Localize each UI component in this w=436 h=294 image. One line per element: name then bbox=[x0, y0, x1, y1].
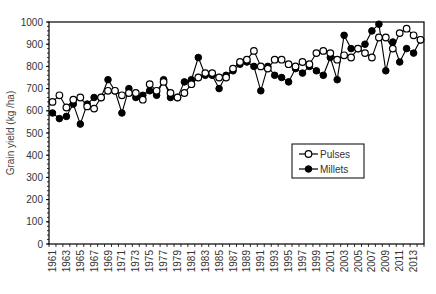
data-point bbox=[237, 59, 244, 66]
data-point bbox=[258, 88, 265, 95]
data-point bbox=[49, 99, 56, 106]
data-point bbox=[146, 81, 153, 88]
y-tick-label: 300 bbox=[26, 172, 43, 183]
x-tick-label: 1961 bbox=[47, 250, 58, 273]
data-point bbox=[376, 21, 383, 28]
y-tick-label: 100 bbox=[26, 216, 43, 227]
data-point bbox=[299, 59, 306, 66]
data-point bbox=[91, 94, 98, 101]
y-tick-label: 0 bbox=[37, 239, 43, 250]
data-point bbox=[160, 79, 167, 86]
data-point bbox=[278, 74, 285, 81]
data-point bbox=[348, 54, 355, 61]
data-point bbox=[265, 65, 272, 72]
data-point bbox=[410, 32, 417, 39]
data-point bbox=[216, 74, 223, 81]
x-tick-label: 1999 bbox=[311, 250, 322, 273]
data-point bbox=[292, 63, 299, 70]
data-point bbox=[105, 88, 112, 95]
y-tick-label: 500 bbox=[26, 128, 43, 139]
data-point bbox=[348, 45, 355, 52]
data-point bbox=[334, 76, 341, 83]
data-point bbox=[390, 45, 397, 52]
data-point bbox=[56, 115, 63, 122]
x-tick-label: 1997 bbox=[297, 250, 308, 273]
legend-label-millets: Millets bbox=[320, 164, 348, 175]
data-point bbox=[56, 92, 63, 99]
data-point bbox=[251, 63, 258, 70]
data-point bbox=[181, 79, 188, 86]
x-tick-label: 2001 bbox=[325, 250, 336, 273]
x-tick-label: 2011 bbox=[394, 250, 405, 272]
data-point bbox=[244, 56, 251, 63]
x-tick-label: 1967 bbox=[89, 250, 100, 273]
data-point bbox=[313, 68, 320, 75]
open-circle-marker-icon bbox=[305, 151, 312, 158]
data-point bbox=[209, 70, 216, 77]
y-tick-label: 400 bbox=[26, 150, 43, 161]
x-tick-label: 1965 bbox=[75, 250, 86, 273]
x-tick-label: 1973 bbox=[130, 250, 141, 273]
x-tick-label: 2013 bbox=[408, 250, 419, 273]
data-point bbox=[285, 79, 292, 86]
x-tick-label: 1977 bbox=[158, 250, 169, 273]
data-point bbox=[49, 110, 56, 117]
data-point bbox=[403, 25, 410, 32]
data-point bbox=[383, 68, 390, 75]
data-point bbox=[320, 72, 327, 79]
x-tick-label: 1989 bbox=[241, 250, 252, 273]
legend: Pulses Millets bbox=[292, 144, 364, 178]
chart-canvas: 01002003004005006007008009001000 1961196… bbox=[0, 0, 436, 294]
data-point bbox=[251, 48, 258, 55]
x-tick-label: 1969 bbox=[103, 250, 114, 273]
x-tick-label: 1991 bbox=[255, 250, 266, 273]
x-tick-label: 1993 bbox=[269, 250, 280, 273]
filled-circle-marker-icon bbox=[305, 166, 312, 173]
x-tick-label: 1983 bbox=[200, 250, 211, 273]
data-point bbox=[98, 94, 105, 101]
data-point bbox=[230, 65, 237, 72]
data-point bbox=[334, 56, 341, 63]
x-axis: 1961196319651967196919711973197519771979… bbox=[47, 244, 424, 272]
data-point bbox=[362, 50, 369, 57]
data-point bbox=[133, 90, 140, 97]
x-tick-label: 1971 bbox=[116, 250, 127, 273]
y-tick-label: 900 bbox=[26, 39, 43, 50]
data-point bbox=[126, 90, 133, 97]
x-tick-label: 2005 bbox=[353, 250, 364, 273]
y-tick-label: 200 bbox=[26, 194, 43, 205]
data-point bbox=[369, 54, 376, 61]
data-point bbox=[77, 94, 84, 101]
data-point bbox=[383, 34, 390, 41]
data-point bbox=[369, 28, 376, 35]
x-tick-label: 2003 bbox=[339, 250, 350, 273]
data-point bbox=[299, 70, 306, 77]
data-point bbox=[188, 81, 195, 88]
x-tick-label: 1981 bbox=[186, 250, 197, 273]
x-tick-label: 1979 bbox=[172, 250, 183, 273]
x-tick-label: 1995 bbox=[283, 250, 294, 273]
data-point bbox=[63, 104, 70, 111]
x-tick-label: 2007 bbox=[366, 250, 377, 273]
data-point bbox=[362, 41, 369, 48]
data-point bbox=[195, 74, 202, 81]
y-tick-label: 700 bbox=[26, 83, 43, 94]
data-point bbox=[70, 96, 77, 103]
data-point bbox=[376, 34, 383, 41]
x-tick-label: 1987 bbox=[228, 250, 239, 273]
data-point bbox=[396, 30, 403, 37]
y-axis-title: Grain yield (kg /ha) bbox=[5, 91, 16, 175]
data-point bbox=[202, 70, 209, 77]
y-axis: 01002003004005006007008009001000 bbox=[21, 17, 49, 250]
data-point bbox=[355, 45, 362, 52]
data-point bbox=[341, 32, 348, 39]
data-point bbox=[223, 74, 230, 81]
x-tick-label: 2009 bbox=[380, 250, 391, 273]
data-point bbox=[417, 37, 424, 44]
data-point bbox=[403, 45, 410, 52]
y-tick-label: 600 bbox=[26, 105, 43, 116]
data-point bbox=[63, 113, 70, 120]
data-point bbox=[285, 61, 292, 68]
data-point bbox=[167, 90, 174, 97]
y-tick-label: 800 bbox=[26, 61, 43, 72]
